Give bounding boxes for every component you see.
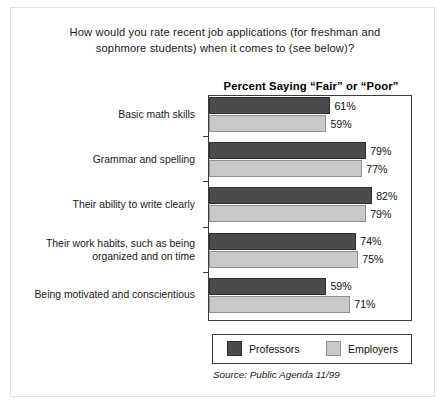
legend-label-employers: Employers <box>348 343 398 355</box>
bar-group: Their work habits, such as being organiz… <box>0 233 447 278</box>
bar-group: Their ability to write clearly82%79% <box>0 187 447 232</box>
bar-value-label: 59% <box>330 118 351 130</box>
bar-value-label: 59% <box>330 280 351 292</box>
bar-row: 79% <box>209 142 412 159</box>
legend-swatch-professors <box>227 341 242 356</box>
source-note: Source: Public Agenda 11/99 <box>213 369 340 380</box>
survey-question: How would you rate recent job applicatio… <box>50 24 400 56</box>
category-label: Grammar and spelling <box>15 153 195 167</box>
bar-professors <box>209 142 366 159</box>
bar-employers <box>209 296 350 313</box>
chart-page: How would you rate recent job applicatio… <box>0 0 447 406</box>
bar-row: 74% <box>209 233 412 250</box>
bar-group: Being motivated and conscientious59%71% <box>0 278 447 323</box>
chart-legend: Professors Employers <box>212 334 412 364</box>
bar-row: 59% <box>209 115 412 132</box>
bar-value-label: 79% <box>370 145 391 157</box>
bar-value-label: 71% <box>354 298 375 310</box>
bar-professors <box>209 278 326 295</box>
axis-tick <box>203 136 209 137</box>
legend-label-professors: Professors <box>249 343 300 355</box>
bar-employers <box>209 160 362 177</box>
bar-row: 79% <box>209 205 412 222</box>
category-label: Their work habits, such as being organiz… <box>15 237 195 264</box>
bar-row: 59% <box>209 278 412 295</box>
bar-professors <box>209 97 330 114</box>
bar-value-label: 74% <box>360 235 381 247</box>
bar-row: 82% <box>209 187 412 204</box>
legend-item-professors: Professors <box>227 341 300 356</box>
axis-tick <box>203 272 209 273</box>
bar-row: 75% <box>209 251 412 268</box>
bar-row: 71% <box>209 296 412 313</box>
bar-value-label: 82% <box>376 190 397 202</box>
bar-group: Grammar and spelling79%77% <box>0 142 447 187</box>
bar-employers <box>209 115 326 132</box>
chart-title: Percent Saying “Fair” or “Poor” <box>198 80 424 92</box>
category-label: Their ability to write clearly <box>15 198 195 212</box>
bar-row: 77% <box>209 160 412 177</box>
bar-value-label: 79% <box>370 208 391 220</box>
bar-employers <box>209 205 366 222</box>
category-label: Being motivated and conscientious <box>15 288 195 302</box>
category-label: Basic math skills <box>15 108 195 122</box>
bar-value-label: 77% <box>366 163 387 175</box>
axis-tick <box>203 181 209 182</box>
bar-employers <box>209 251 358 268</box>
bar-professors <box>209 187 372 204</box>
bar-row: 61% <box>209 97 412 114</box>
bar-group: Basic math skills61%59% <box>0 97 447 142</box>
bar-value-label: 75% <box>362 253 383 265</box>
bar-professors <box>209 233 356 250</box>
axis-tick <box>203 227 209 228</box>
bar-value-label: 61% <box>334 100 355 112</box>
legend-swatch-employers <box>326 341 341 356</box>
legend-item-employers: Employers <box>326 341 398 356</box>
